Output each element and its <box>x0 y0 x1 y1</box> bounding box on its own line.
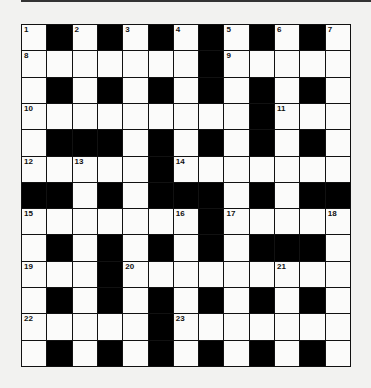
answer-cell[interactable]: 23 <box>174 314 198 339</box>
answer-cell[interactable] <box>22 235 46 260</box>
answer-cell[interactable] <box>275 341 299 366</box>
answer-cell[interactable] <box>326 262 350 287</box>
answer-cell[interactable] <box>275 183 299 208</box>
answer-cell[interactable] <box>224 78 248 103</box>
answer-cell[interactable] <box>123 51 147 76</box>
answer-cell[interactable] <box>47 104 71 129</box>
answer-cell[interactable] <box>275 130 299 155</box>
answer-cell[interactable] <box>199 262 223 287</box>
answer-cell[interactable] <box>326 130 350 155</box>
answer-cell[interactable]: 6 <box>275 25 299 50</box>
answer-cell[interactable] <box>250 209 274 234</box>
answer-cell[interactable] <box>98 314 122 339</box>
answer-cell[interactable] <box>174 51 198 76</box>
answer-cell[interactable] <box>22 78 46 103</box>
answer-cell[interactable]: 2 <box>73 25 97 50</box>
answer-cell[interactable]: 4 <box>174 25 198 50</box>
answer-cell[interactable] <box>123 78 147 103</box>
answer-cell[interactable] <box>326 104 350 129</box>
answer-cell[interactable]: 19 <box>22 262 46 287</box>
answer-cell[interactable] <box>123 341 147 366</box>
answer-cell[interactable]: 10 <box>22 104 46 129</box>
answer-cell[interactable] <box>47 157 71 182</box>
answer-cell[interactable] <box>250 157 274 182</box>
answer-cell[interactable] <box>275 157 299 182</box>
answer-cell[interactable]: 12 <box>22 157 46 182</box>
answer-cell[interactable] <box>250 51 274 76</box>
answer-cell[interactable] <box>98 209 122 234</box>
answer-cell[interactable] <box>224 341 248 366</box>
answer-cell[interactable] <box>300 314 324 339</box>
answer-cell[interactable] <box>275 288 299 313</box>
answer-cell[interactable] <box>224 130 248 155</box>
answer-cell[interactable] <box>22 288 46 313</box>
answer-cell[interactable] <box>250 262 274 287</box>
answer-cell[interactable] <box>275 209 299 234</box>
answer-cell[interactable] <box>199 157 223 182</box>
answer-cell[interactable]: 3 <box>123 25 147 50</box>
answer-cell[interactable] <box>123 288 147 313</box>
answer-cell[interactable] <box>123 183 147 208</box>
answer-cell[interactable] <box>326 157 350 182</box>
answer-cell[interactable] <box>275 51 299 76</box>
answer-cell[interactable] <box>174 262 198 287</box>
answer-cell[interactable]: 11 <box>275 104 299 129</box>
answer-cell[interactable] <box>98 157 122 182</box>
answer-cell[interactable] <box>123 314 147 339</box>
answer-cell[interactable] <box>73 183 97 208</box>
answer-cell[interactable] <box>174 104 198 129</box>
answer-cell[interactable] <box>149 209 173 234</box>
answer-cell[interactable]: 1 <box>22 25 46 50</box>
answer-cell[interactable] <box>300 157 324 182</box>
answer-cell[interactable]: 13 <box>73 157 97 182</box>
answer-cell[interactable] <box>300 262 324 287</box>
answer-cell[interactable] <box>123 209 147 234</box>
answer-cell[interactable] <box>73 288 97 313</box>
answer-cell[interactable]: 21 <box>275 262 299 287</box>
answer-cell[interactable] <box>326 235 350 260</box>
answer-cell[interactable] <box>149 51 173 76</box>
answer-cell[interactable] <box>98 51 122 76</box>
answer-cell[interactable] <box>149 262 173 287</box>
answer-cell[interactable]: 16 <box>174 209 198 234</box>
answer-cell[interactable]: 18 <box>326 209 350 234</box>
answer-cell[interactable] <box>123 130 147 155</box>
answer-cell[interactable] <box>73 262 97 287</box>
answer-cell[interactable] <box>199 314 223 339</box>
answer-cell[interactable] <box>174 288 198 313</box>
answer-cell[interactable] <box>199 104 223 129</box>
answer-cell[interactable] <box>326 341 350 366</box>
answer-cell[interactable] <box>224 157 248 182</box>
answer-cell[interactable] <box>47 51 71 76</box>
answer-cell[interactable] <box>174 78 198 103</box>
answer-cell[interactable] <box>98 104 122 129</box>
answer-cell[interactable] <box>123 104 147 129</box>
answer-cell[interactable] <box>300 104 324 129</box>
answer-cell[interactable]: 15 <box>22 209 46 234</box>
answer-cell[interactable] <box>224 288 248 313</box>
answer-cell[interactable] <box>174 341 198 366</box>
answer-cell[interactable] <box>326 288 350 313</box>
answer-cell[interactable] <box>22 341 46 366</box>
answer-cell[interactable] <box>47 262 71 287</box>
answer-cell[interactable] <box>224 235 248 260</box>
answer-cell[interactable] <box>73 209 97 234</box>
answer-cell[interactable] <box>300 209 324 234</box>
answer-cell[interactable] <box>47 314 71 339</box>
answer-cell[interactable] <box>73 104 97 129</box>
answer-cell[interactable]: 7 <box>326 25 350 50</box>
answer-cell[interactable]: 20 <box>123 262 147 287</box>
answer-cell[interactable] <box>123 157 147 182</box>
answer-cell[interactable] <box>73 51 97 76</box>
answer-cell[interactable] <box>300 51 324 76</box>
answer-cell[interactable] <box>73 78 97 103</box>
answer-cell[interactable] <box>47 209 71 234</box>
answer-cell[interactable] <box>326 51 350 76</box>
answer-cell[interactable] <box>174 130 198 155</box>
answer-cell[interactable] <box>149 104 173 129</box>
answer-cell[interactable] <box>224 262 248 287</box>
answer-cell[interactable]: 9 <box>224 51 248 76</box>
answer-cell[interactable]: 5 <box>224 25 248 50</box>
answer-cell[interactable]: 14 <box>174 157 198 182</box>
answer-cell[interactable]: 17 <box>224 209 248 234</box>
